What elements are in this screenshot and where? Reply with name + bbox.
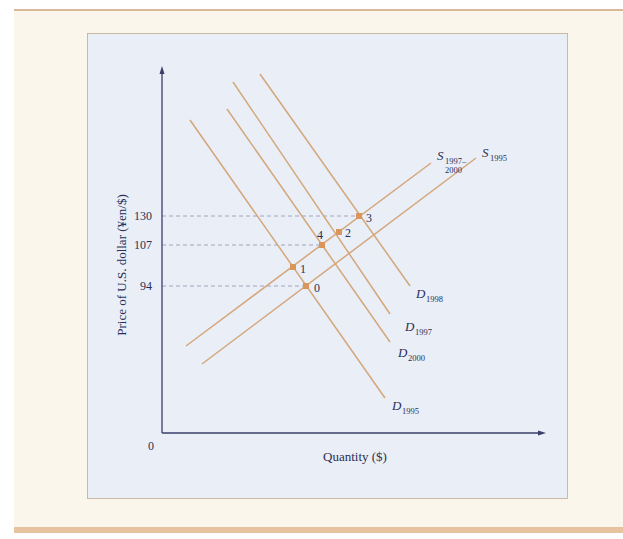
label-d1998: D 1998 [415, 286, 443, 304]
curve-d1998 [260, 74, 410, 286]
point-label-2: 2 [345, 226, 351, 240]
point-label-3: 3 [366, 211, 372, 225]
svg-text:1997: 1997 [415, 327, 432, 337]
y-tick-107: 107 [134, 238, 152, 252]
svg-text:2000: 2000 [408, 353, 425, 363]
point-label-1: 1 [300, 262, 306, 276]
label-d1997: D 1997 [404, 319, 432, 337]
curve-s1997-2000 [186, 163, 431, 346]
point-label-0: 0 [314, 281, 320, 295]
svg-text:1998: 1998 [426, 294, 443, 304]
origin-label: 0 [148, 439, 154, 453]
x-axis-arrow-icon [538, 431, 546, 436]
y-tick-130: 130 [134, 209, 152, 223]
svg-text:2000: 2000 [445, 165, 462, 175]
svg-text:S: S [482, 145, 489, 160]
point-label-4: 4 [317, 228, 323, 242]
svg-text:D: D [391, 398, 402, 413]
label-s1997-2000: S 1997– 2000 [437, 148, 467, 175]
y-tick-94: 94 [140, 279, 152, 293]
point-0 [303, 283, 309, 289]
svg-text:D: D [404, 319, 415, 334]
svg-text:1995: 1995 [490, 153, 507, 163]
y-axis-title: Price of U.S. dollar (¥en/$) [114, 194, 129, 336]
chart-svg: 0 1 4 2 3 130 107 94 0 Quantity ($) Pric… [0, 0, 623, 539]
svg-text:S: S [437, 148, 444, 163]
label-d1995: D 1995 [391, 398, 419, 416]
curve-d1997 [233, 82, 390, 314]
svg-text:D: D [415, 286, 426, 301]
label-s1995: S 1995 [482, 145, 507, 163]
svg-text:1995: 1995 [402, 406, 419, 416]
label-d2000: D 2000 [397, 345, 425, 363]
x-axis-title: Quantity ($) [323, 449, 387, 464]
point-2 [336, 229, 342, 235]
point-4 [319, 242, 325, 248]
y-axis-arrow-icon [160, 66, 165, 74]
point-3 [356, 213, 362, 219]
svg-text:D: D [397, 345, 408, 360]
point-1 [290, 264, 296, 270]
curve-d2000 [227, 109, 390, 342]
